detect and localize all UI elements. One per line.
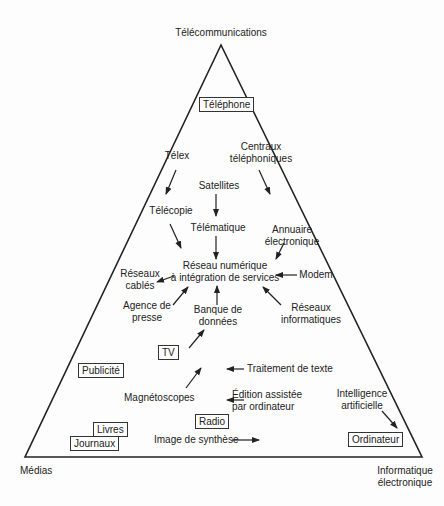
node-rnis-line2: à intégration de services bbox=[170, 272, 280, 284]
vertex-telecommunications: Télécommunications bbox=[170, 27, 272, 39]
vertex-medias: Médias bbox=[20, 465, 52, 477]
diagram-lines bbox=[0, 0, 444, 506]
node-agence-presse: Agence de presse bbox=[122, 300, 172, 324]
node-modem: Modem bbox=[296, 269, 336, 281]
node-reseaux-cables-line2: cablés bbox=[120, 280, 160, 292]
node-reseaux-info-line1: Réseaux bbox=[278, 302, 344, 314]
node-image-synthese: Image de synthèse bbox=[154, 434, 239, 446]
box-livres: Livres bbox=[93, 422, 128, 437]
node-agence-line2: presse bbox=[122, 312, 172, 324]
node-centraux-line2: téléphoniques bbox=[226, 153, 296, 165]
node-telex: Télex bbox=[162, 150, 192, 162]
node-annuaire: Annuaire électronique bbox=[262, 224, 322, 248]
node-annuaire-line1: Annuaire bbox=[262, 224, 322, 236]
box-tv: TV bbox=[158, 345, 179, 360]
node-satellites: Satellites bbox=[196, 180, 242, 192]
node-traitement-texte: Traitement de texte bbox=[247, 363, 333, 375]
box-publicite: Publicité bbox=[78, 363, 124, 378]
node-rnis: Réseau numérique à intégration de servic… bbox=[170, 260, 280, 284]
node-reseaux-cables: Réseaux cablés bbox=[120, 268, 160, 292]
node-banque-line2: données bbox=[193, 316, 243, 328]
node-ia-line2: artificielle bbox=[332, 400, 392, 412]
node-centraux-line1: Centraux bbox=[226, 141, 296, 153]
node-edition-line1: Édition assistée bbox=[232, 389, 302, 401]
node-agence-line1: Agence de bbox=[122, 300, 172, 312]
box-ordinateur: Ordinateur bbox=[348, 432, 403, 447]
node-ia-line1: Intelligence bbox=[332, 388, 392, 400]
node-reseaux-info-line2: informatiques bbox=[278, 314, 344, 326]
node-reseaux-cables-line1: Réseaux bbox=[120, 268, 160, 280]
box-radio: Radio bbox=[195, 414, 229, 429]
node-intelligence-artificielle: Intelligence artificielle bbox=[332, 388, 392, 412]
node-reseaux-informatiques: Réseaux informatiques bbox=[278, 302, 344, 326]
node-annuaire-line2: électronique bbox=[262, 236, 322, 248]
box-telephone: Téléphone bbox=[199, 97, 254, 112]
node-telematique: Télématique bbox=[190, 222, 246, 234]
vertex-informatique: Informatique électronique bbox=[370, 465, 440, 489]
node-edition-line2: par ordinateur bbox=[232, 401, 302, 413]
box-journaux: Journaux bbox=[70, 436, 119, 451]
node-banque-line1: Banque de bbox=[193, 304, 243, 316]
node-magnetoscopes: Magnétoscopes bbox=[124, 392, 195, 404]
node-rnis-line1: Réseau numérique bbox=[170, 260, 280, 272]
node-edition: Édition assistée par ordinateur bbox=[232, 389, 302, 413]
node-centraux: Centraux téléphoniques bbox=[226, 141, 296, 165]
node-banque-donnees: Banque de données bbox=[193, 304, 243, 328]
vertex-informatique-label: Informatique électronique bbox=[370, 465, 440, 489]
node-telecopie: Télécopie bbox=[148, 205, 194, 217]
